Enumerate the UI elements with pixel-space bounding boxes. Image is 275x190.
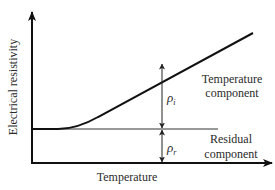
- x-axis-label: Temperature: [97, 170, 157, 184]
- temperature-component-label-line2: component: [205, 86, 259, 100]
- residual-component-label-line1: Residual: [210, 132, 253, 146]
- temperature-component-label-line1: Temperature: [202, 72, 262, 86]
- y-axis-label: Electrical resistivity: [6, 39, 20, 135]
- rho-r-symbol: ρr: [166, 140, 177, 157]
- resistivity-diagram: ρi ρr Temperature component Residual com…: [0, 0, 275, 190]
- rho-i-symbol: ρi: [166, 90, 175, 107]
- residual-component-label-line2: component: [204, 147, 258, 161]
